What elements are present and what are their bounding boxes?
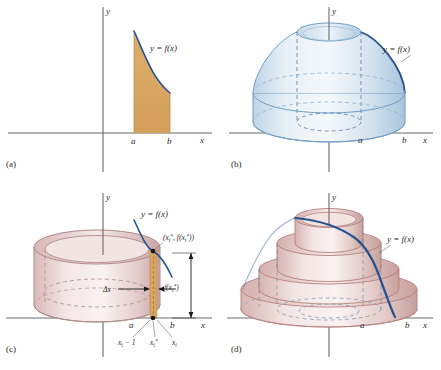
partition-label-left: xi − 1 bbox=[117, 338, 135, 348]
curve-label: y = f(x) bbox=[382, 44, 410, 54]
curve-label: y = f(x) bbox=[386, 234, 414, 244]
height-measure-arrow-down bbox=[189, 312, 194, 318]
tick-label-a: a bbox=[129, 320, 134, 330]
panel-b: y x y = f(x) a b (b) bbox=[221, 0, 441, 185]
solid-base-body bbox=[253, 93, 405, 142]
x-axis-label: x bbox=[422, 320, 427, 330]
panel-label-d: (d) bbox=[231, 344, 242, 354]
point-bottom-marker bbox=[151, 316, 156, 321]
partition-right-sub: i bbox=[175, 342, 177, 348]
height-measure-arrow-up bbox=[189, 253, 194, 259]
height-label-post: ) bbox=[175, 283, 179, 292]
partition-leader-left bbox=[133, 320, 150, 337]
partition-label-star: xi* bbox=[149, 338, 158, 348]
panel-label-c: (c) bbox=[6, 344, 16, 354]
curve-label: y = f(x) bbox=[140, 209, 168, 219]
point-coordinate-label: (xi*, f(xi*)) bbox=[163, 233, 195, 243]
curve-label: y = f(x) bbox=[149, 43, 177, 53]
tick-label-b: b bbox=[402, 135, 407, 145]
tick-label-b: b bbox=[170, 320, 175, 330]
partition-label-right: xi bbox=[171, 338, 177, 348]
point-label-mid: , f(x bbox=[173, 233, 185, 242]
tick-label-a: a bbox=[131, 136, 136, 146]
tick-label-a: a bbox=[358, 135, 363, 145]
shell-method-figure: y x y = f(x) a b (a) bbox=[0, 0, 441, 370]
point-top-marker bbox=[151, 249, 156, 254]
panel-label-a: (a) bbox=[6, 159, 16, 169]
x-axis-label: x bbox=[200, 320, 205, 330]
tick-label-b: b bbox=[405, 320, 410, 330]
partition-star-post: * bbox=[155, 338, 158, 344]
y-axis-label: y bbox=[105, 6, 110, 16]
y-axis-label: y bbox=[331, 6, 336, 16]
panel-label-b: (b) bbox=[231, 159, 242, 169]
curve-label-leader bbox=[401, 55, 411, 62]
partition-left-post: − 1 bbox=[123, 338, 136, 347]
delta-x-label: Δx bbox=[102, 285, 111, 294]
y-axis-label: y bbox=[105, 192, 110, 202]
x-axis-label: x bbox=[422, 135, 427, 145]
shell-top-inner-rim bbox=[45, 236, 149, 263]
height-label: f(xi*) bbox=[164, 283, 179, 293]
x-axis-label: x bbox=[199, 135, 204, 145]
partition-leader-star bbox=[153, 321, 155, 337]
panel-c: y x y = f(x) a b (xi*, f(xi*)) Δx f(xi*)… bbox=[0, 185, 221, 370]
panel-d: y x y = f(x) a b (d) bbox=[221, 185, 441, 370]
tick-label-b: b bbox=[167, 136, 172, 146]
tick-label-a: a bbox=[360, 320, 365, 330]
y-axis-label: y bbox=[331, 192, 336, 202]
point-label-close: )) bbox=[188, 233, 194, 242]
panel-a: y x y = f(x) a b (a) bbox=[0, 0, 221, 185]
